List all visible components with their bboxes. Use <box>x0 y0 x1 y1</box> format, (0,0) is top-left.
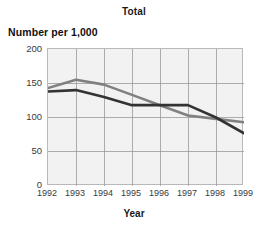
plot-area <box>47 48 243 185</box>
y-tick-label-200: 200 <box>2 43 42 54</box>
x-tick-label-1992: 1992 <box>32 188 62 198</box>
x-axis-title: Year <box>0 208 268 219</box>
chart-title: Total <box>0 6 268 17</box>
plot-canvas <box>48 49 244 186</box>
y-tick-label-150: 150 <box>2 77 42 88</box>
y-axis-label: Number per 1,000 <box>8 26 98 38</box>
y-tick-label-100: 100 <box>2 111 42 122</box>
x-tick-label-1997: 1997 <box>172 188 202 198</box>
x-tick-label-1995: 1995 <box>116 188 146 198</box>
y-tick-label-50: 50 <box>2 145 42 156</box>
data-line-dark <box>48 90 244 133</box>
x-tick-label-1998: 1998 <box>200 188 230 198</box>
x-tick-label-1994: 1994 <box>88 188 118 198</box>
x-tick-label-1999: 1999 <box>228 188 258 198</box>
x-tick-label-1996: 1996 <box>144 188 174 198</box>
chart-figure: Total Number per 1,000 200 150 100 50 0 <box>0 0 268 232</box>
x-tick-label-1993: 1993 <box>60 188 90 198</box>
